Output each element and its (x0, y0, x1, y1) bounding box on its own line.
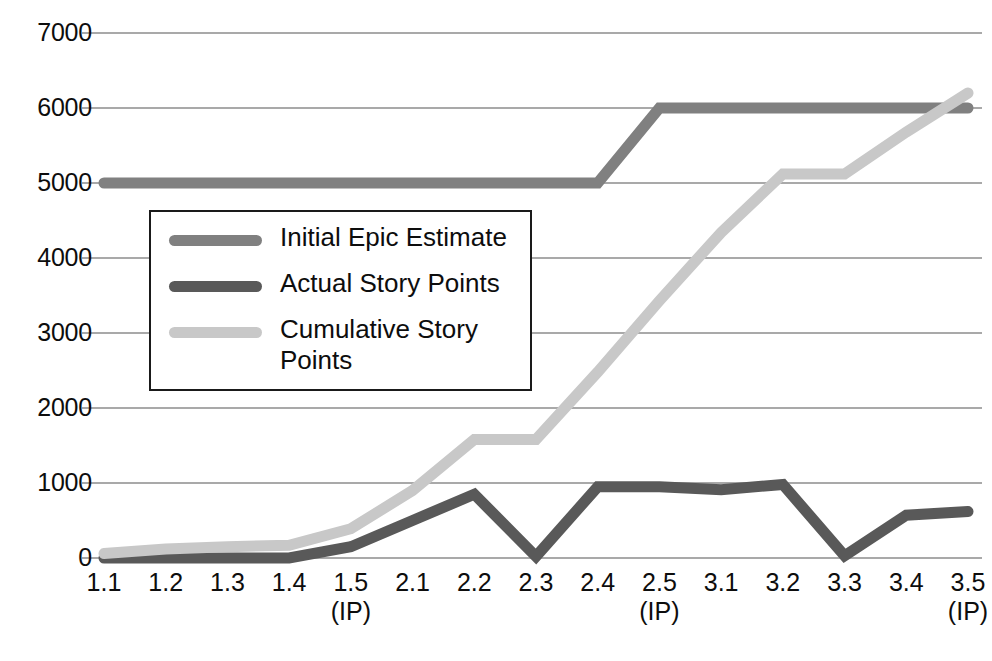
y-axis-tick-label: 1000 (4, 470, 92, 495)
y-axis-tick-label: 0 (4, 545, 92, 570)
legend-swatch-icon (169, 327, 262, 338)
legend-label: Cumulative Story Points (280, 314, 478, 376)
x-tick-main: 3.5 (928, 568, 992, 597)
legend-item: Initial Epic Estimate (151, 222, 530, 266)
legend-label: Actual Story Points (280, 268, 500, 299)
legend-swatch-icon (169, 281, 262, 292)
x-tick-sublabel: (IP) (311, 597, 391, 626)
y-axis-tick-label: 5000 (4, 170, 92, 195)
legend-item: Cumulative Story Points (151, 314, 530, 358)
y-axis-tick-label: 2000 (4, 395, 92, 420)
x-tick-sublabel: (IP) (619, 597, 699, 626)
y-axis-tick-label: 6000 (4, 95, 92, 120)
x-tick-sublabel: (IP) (928, 597, 992, 626)
y-axis-tick-label: 4000 (4, 245, 92, 270)
legend-label: Initial Epic Estimate (280, 222, 507, 253)
y-axis-tick-label: 3000 (4, 320, 92, 345)
line-chart: 70006000500040003000200010000 1.11.21.31… (0, 0, 992, 661)
chart-legend: Initial Epic EstimateActual Story Points… (149, 210, 532, 391)
y-axis-tick-label: 7000 (4, 20, 92, 45)
x-axis-tick-label: 3.5(IP) (928, 568, 992, 626)
legend-swatch-icon (169, 235, 262, 246)
legend-item: Actual Story Points (151, 268, 530, 312)
